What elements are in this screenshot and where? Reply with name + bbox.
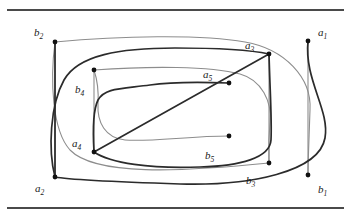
vertex-label-a2: a2 <box>35 183 44 194</box>
vertex-dot-a3 <box>267 52 272 57</box>
vertex-dot-a4 <box>92 150 97 155</box>
arc-a2-a3-outer <box>55 42 56 177</box>
arc-diagram-svg <box>0 0 351 219</box>
vertex-label-b1: b1 <box>318 184 327 195</box>
vertex-label-b2: b2 <box>34 27 43 38</box>
vertex-dot-a2 <box>53 175 58 180</box>
vertex-label-a5: a5 <box>203 69 212 80</box>
vertex-dot-a1 <box>306 39 311 44</box>
arc-a1-a2 <box>55 41 326 184</box>
vertex-label-b3: b3 <box>246 175 255 186</box>
vertex-label-b5: b5 <box>205 150 214 161</box>
vertex-label-a4: a4 <box>72 138 81 149</box>
figure-canvas: a1 a2 a3 a4 a5 b1 b2 b3 b4 b5 <box>0 0 351 219</box>
arc-a3-a4 <box>94 54 271 167</box>
vertex-dot-b2 <box>53 40 58 45</box>
vertex-dot-a5 <box>227 81 232 86</box>
vertex-dot-b1 <box>306 173 311 178</box>
vertex-label-a1: a1 <box>318 27 327 38</box>
vertex-label-a3: a3 <box>245 40 254 51</box>
vertex-dot-b4 <box>92 68 97 73</box>
vertex-dot-b3 <box>267 161 272 166</box>
vertex-dots <box>53 39 311 180</box>
vertex-dot-b5 <box>227 134 232 139</box>
vertex-label-b4: b4 <box>75 84 84 95</box>
arc-b4-b3 <box>94 67 270 163</box>
